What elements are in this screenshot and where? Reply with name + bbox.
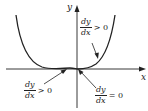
y-axis-label: y bbox=[67, 2, 72, 12]
x-axis-arrow-icon bbox=[139, 67, 146, 72]
relation: > 0 bbox=[94, 24, 108, 32]
annotation-upper-right: dy dx > 0 bbox=[80, 18, 108, 37]
annotation-lower-right: dy dx = 0 bbox=[95, 86, 123, 105]
fraction-denominator: dx bbox=[96, 96, 106, 105]
fraction-denominator: dx bbox=[25, 91, 35, 100]
diagram-canvas bbox=[0, 0, 148, 111]
fraction-numerator: dy bbox=[80, 18, 92, 28]
x-axis-label: x bbox=[141, 72, 146, 82]
relation: = 0 bbox=[109, 92, 123, 100]
annotation-lower-left: dy dx > 0 bbox=[24, 81, 52, 100]
fraction-denominator: dx bbox=[81, 28, 91, 37]
y-axis-arrow-icon bbox=[75, 5, 80, 12]
fraction-numerator: dy bbox=[24, 81, 36, 91]
relation: > 0 bbox=[38, 87, 52, 95]
arrowhead-icon bbox=[95, 53, 99, 60]
annotation-arrow-lower-right bbox=[81, 72, 96, 88]
fraction-numerator: dy bbox=[95, 86, 107, 96]
arrowhead-icon bbox=[61, 69, 68, 74]
